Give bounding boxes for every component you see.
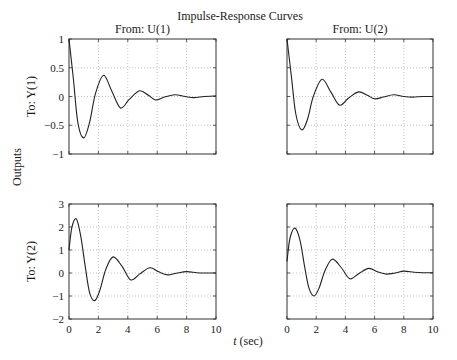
y-tick-label: 1 xyxy=(59,244,65,256)
y-tick-label: 3 xyxy=(59,198,65,210)
column-title: From: U(2) xyxy=(333,22,388,36)
impulse-response-curve xyxy=(287,39,433,130)
impulse-response-curve xyxy=(69,219,216,301)
y-tick-label: −1 xyxy=(52,290,64,302)
x-tick-label: 6 xyxy=(372,323,378,335)
y-tick-label: −1 xyxy=(52,148,64,160)
figure-title: Impulse-Response Curves xyxy=(177,9,303,23)
x-tick-label: 2 xyxy=(313,323,319,335)
y-tick-label: −0.5 xyxy=(44,119,64,131)
y-tick-label: 1 xyxy=(59,33,65,45)
x-tick-label: 10 xyxy=(211,323,223,335)
y-tick-label: 0 xyxy=(59,267,65,279)
impulse-response-curve xyxy=(287,228,433,296)
x-tick-label: 8 xyxy=(401,323,407,335)
x-tick-label: 0 xyxy=(284,323,290,335)
x-tick-label: 4 xyxy=(125,323,131,335)
column-title: From: U(1) xyxy=(115,22,170,36)
y-tick-label: 0 xyxy=(59,91,65,103)
subplot-y2-from-u2: 0246810 xyxy=(284,204,439,335)
y-tick-label: 0.5 xyxy=(50,62,64,74)
x-tick-label: 2 xyxy=(96,323,102,335)
x-tick-label: 8 xyxy=(184,323,190,335)
x-tick-label: 10 xyxy=(428,323,440,335)
time-xlabel: t (sec) xyxy=(233,334,263,348)
row-label: To: Y(2) xyxy=(24,241,38,282)
x-tick-label: 0 xyxy=(66,323,72,335)
axes-frame xyxy=(287,204,433,319)
outputs-ylabel: Outputs xyxy=(10,148,24,186)
subplot-y2-from-u1: −2−101230246810To: Y(2) xyxy=(24,198,222,335)
axes-frame xyxy=(69,39,216,154)
y-tick-label: 2 xyxy=(59,221,65,233)
row-label: To: Y(1) xyxy=(24,76,38,117)
time-xlabel-unit: (sec) xyxy=(237,334,263,348)
x-tick-label: 4 xyxy=(343,323,349,335)
y-tick-label: −2 xyxy=(52,313,64,325)
impulse-response-figure: Impulse-Response Curves Outputs t (sec) … xyxy=(0,0,457,360)
impulse-response-curve xyxy=(69,39,216,138)
subplot-y1-from-u2: From: U(2) xyxy=(287,22,433,154)
axes-frame xyxy=(69,204,216,319)
subplot-y1-from-u1: −1−0.500.51From: U(1)To: Y(1) xyxy=(24,22,216,160)
x-tick-label: 6 xyxy=(154,323,160,335)
